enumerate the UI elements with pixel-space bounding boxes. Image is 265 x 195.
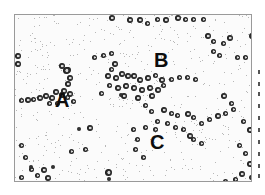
cell <box>19 175 24 180</box>
cell <box>239 171 245 177</box>
cell <box>15 61 21 67</box>
cell <box>211 49 216 54</box>
label-b: B <box>154 50 168 70</box>
edge-marks <box>258 70 261 180</box>
cell <box>223 111 228 116</box>
cell <box>155 87 161 93</box>
cell <box>161 107 167 113</box>
cell <box>127 17 133 23</box>
cell <box>155 17 160 22</box>
cell <box>169 77 174 82</box>
cell <box>149 93 155 99</box>
cell <box>235 55 240 60</box>
cell <box>155 119 160 124</box>
cell <box>191 17 196 22</box>
cell <box>231 107 236 112</box>
edge-tick <box>258 152 260 156</box>
cell <box>161 83 166 88</box>
edge-tick <box>258 164 260 168</box>
cell <box>23 181 28 182</box>
cell <box>183 17 188 22</box>
cell <box>211 39 216 44</box>
cell <box>165 121 170 126</box>
cell <box>131 85 137 91</box>
cell <box>205 33 211 39</box>
cell <box>241 119 246 124</box>
cell <box>145 21 150 26</box>
cell <box>221 93 227 99</box>
cell <box>115 85 121 91</box>
cell <box>135 95 141 101</box>
cell <box>185 75 190 80</box>
cell <box>221 41 226 46</box>
cell <box>131 127 136 132</box>
cell <box>217 53 222 58</box>
cell <box>149 109 154 114</box>
cell <box>143 125 148 130</box>
cell <box>243 55 248 60</box>
cell <box>87 125 93 131</box>
cell <box>191 137 196 142</box>
cell <box>113 75 119 81</box>
cell <box>247 127 252 133</box>
cell <box>229 101 234 106</box>
cell <box>139 87 145 93</box>
cell <box>137 77 143 83</box>
micrograph-frame: A B C <box>14 14 252 182</box>
cell <box>249 33 252 39</box>
cell <box>19 143 24 148</box>
cell <box>153 73 158 78</box>
edge-tick <box>258 104 260 108</box>
edge-tick <box>258 140 260 144</box>
cell <box>191 115 196 120</box>
cell <box>227 35 233 41</box>
cell <box>51 165 55 169</box>
cell <box>23 155 28 160</box>
cell <box>247 161 252 167</box>
cell <box>31 97 36 102</box>
cell <box>201 17 206 22</box>
cell <box>107 83 112 88</box>
edge-tick <box>258 128 260 132</box>
cell <box>175 113 180 118</box>
cell <box>173 125 178 130</box>
cell <box>69 149 74 154</box>
cell <box>199 141 204 146</box>
cell <box>19 98 24 103</box>
cell <box>107 177 111 181</box>
cell <box>131 73 137 79</box>
cell <box>92 55 97 60</box>
cell <box>143 103 148 108</box>
cell <box>63 67 70 74</box>
cell <box>223 179 228 182</box>
cell <box>243 151 248 156</box>
cell <box>99 91 104 96</box>
cell <box>237 143 242 148</box>
cell <box>137 17 143 23</box>
cell <box>119 93 123 97</box>
edge-tick <box>258 70 260 74</box>
label-a: A <box>55 90 69 110</box>
cell <box>105 169 112 176</box>
cell <box>145 75 151 81</box>
cell <box>109 67 114 72</box>
cell <box>15 53 21 59</box>
cell <box>83 147 88 152</box>
cell <box>71 99 76 104</box>
cell <box>249 175 252 180</box>
cell <box>101 53 106 58</box>
cell <box>133 147 138 152</box>
cell <box>177 75 182 80</box>
cell <box>163 17 169 23</box>
cell <box>215 113 221 119</box>
cell <box>45 175 51 181</box>
cell <box>109 51 114 56</box>
cell <box>181 127 186 132</box>
cell <box>169 111 174 116</box>
cell <box>47 101 52 106</box>
cell <box>105 73 111 79</box>
cell <box>175 15 181 21</box>
edge-tick <box>258 174 260 178</box>
cell <box>29 165 33 169</box>
cell <box>135 137 140 142</box>
